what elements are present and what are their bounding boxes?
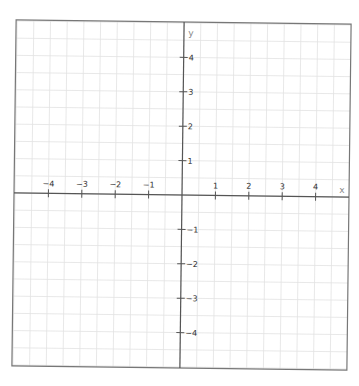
x-tick-label: 1 <box>213 181 218 190</box>
x-tick-label: −2 <box>109 180 121 189</box>
coordinate-plane-svg: −4−3−2−112344321−1−2−3−4 x y <box>0 0 359 386</box>
x-tick-label: −4 <box>43 179 55 188</box>
x-tick-label: 4 <box>313 183 318 192</box>
y-tick-label: −2 <box>186 260 198 269</box>
y-tick-label: 3 <box>188 88 193 97</box>
x-tick-label: 2 <box>246 182 251 191</box>
y-tick-label: 1 <box>187 157 192 166</box>
x-tick-label: −3 <box>76 180 88 189</box>
y-tick-label: −4 <box>185 329 197 338</box>
y-tick-label: 2 <box>188 122 193 131</box>
x-tick-label: −1 <box>143 181 155 190</box>
x-axis-label: x <box>339 185 345 195</box>
y-tick-label: −3 <box>186 294 198 303</box>
y-tick-label: −1 <box>187 225 199 234</box>
y-tick-label: 4 <box>189 53 194 62</box>
x-tick-label: 3 <box>280 182 285 191</box>
y-axis-label: y <box>188 28 194 38</box>
coordinate-plane: −4−3−2−112344321−1−2−3−4 x y <box>0 0 359 386</box>
